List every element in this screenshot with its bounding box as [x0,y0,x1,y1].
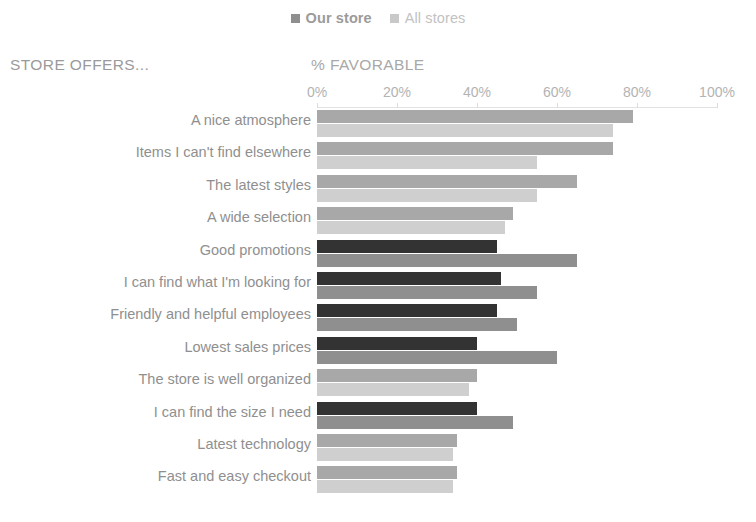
chart-row: Latest technology [0,432,756,464]
bar-all-stores[interactable] [317,156,537,169]
category-label: A wide selection [0,209,311,225]
chart-legend: Our store All stores [0,10,756,26]
category-label: The store is well organized [0,371,311,387]
legend-swatch-all-stores [390,14,399,23]
legend-label-our-store: Our store [306,10,372,26]
bar-all-stores[interactable] [317,124,613,137]
x-tick-label: 40% [463,84,491,100]
bar-all-stores[interactable] [317,286,537,299]
value-axis-title: % FAVORABLE [311,56,425,74]
x-tick-label: 60% [543,84,571,100]
bar-all-stores[interactable] [317,221,505,234]
bar-all-stores[interactable] [317,383,469,396]
bar-our-store[interactable] [317,304,497,317]
legend-entry-all-stores[interactable]: All stores [390,10,466,26]
x-tick-mark [317,103,318,108]
legend-entry-our-store[interactable]: Our store [291,10,372,26]
legend-swatch-our-store [291,14,300,23]
bar-all-stores[interactable] [317,448,453,461]
category-label: The latest styles [0,177,311,193]
chart-row: Friendly and helpful employees [0,302,756,334]
bar-all-stores[interactable] [317,351,557,364]
category-label: Good promotions [0,242,311,258]
bar-our-store[interactable] [317,272,501,285]
chart-row: Good promotions [0,238,756,270]
bar-our-store[interactable] [317,110,633,123]
chart-row: I can find what I'm looking for [0,270,756,302]
bar-our-store[interactable] [317,142,613,155]
bar-our-store[interactable] [317,369,477,382]
x-tick-label: 0% [307,84,327,100]
chart-row: A nice atmosphere [0,108,756,140]
chart-row: Items I can't find elsewhere [0,140,756,172]
x-tick-label: 100% [699,84,735,100]
bar-our-store[interactable] [317,175,577,188]
x-axis-tick-labels: 0%20%40%60%80%100% [317,84,717,102]
chart-row: Lowest sales prices [0,335,756,367]
chart-row: The latest styles [0,173,756,205]
bar-our-store[interactable] [317,402,477,415]
category-label: I can find what I'm looking for [0,274,311,290]
category-label: I can find the size I need [0,404,311,420]
x-tick-mark [717,103,718,108]
x-tick-mark [637,103,638,108]
category-label: Friendly and helpful employees [0,306,311,322]
chart-row: The store is well organized [0,367,756,399]
category-axis-title: STORE OFFERS... [10,56,149,74]
bar-chart: Our store All stores STORE OFFERS... % F… [0,0,756,522]
x-tick-mark [477,103,478,108]
bar-our-store[interactable] [317,240,497,253]
bar-all-stores[interactable] [317,189,537,202]
bar-all-stores[interactable] [317,416,513,429]
bar-our-store[interactable] [317,207,513,220]
bar-all-stores[interactable] [317,480,453,493]
legend-label-all-stores: All stores [405,10,466,26]
x-tick-mark [557,103,558,108]
plot-area: A nice atmosphereItems I can't find else… [0,108,756,504]
category-label: A nice atmosphere [0,112,311,128]
bar-all-stores[interactable] [317,318,517,331]
x-tick-label: 80% [623,84,651,100]
bar-our-store[interactable] [317,434,457,447]
x-tick-label: 20% [383,84,411,100]
chart-row: A wide selection [0,205,756,237]
bar-our-store[interactable] [317,337,477,350]
bar-all-stores[interactable] [317,254,577,267]
chart-row: Fast and easy checkout [0,464,756,496]
category-label: Latest technology [0,436,311,452]
category-label: Lowest sales prices [0,339,311,355]
category-label: Fast and easy checkout [0,468,311,484]
chart-row: I can find the size I need [0,400,756,432]
x-tick-mark [397,103,398,108]
bar-our-store[interactable] [317,466,457,479]
category-label: Items I can't find elsewhere [0,144,311,160]
